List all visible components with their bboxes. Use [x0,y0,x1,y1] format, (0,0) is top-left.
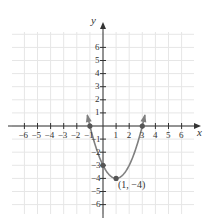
x-tick-label: −6 [18,131,28,140]
x-tick-label: 3 [140,131,145,140]
y-tick-label: 6 [95,43,100,52]
x-tick-label: 4 [153,131,158,140]
y-tick-label: −2 [91,148,101,157]
x-tick-label: 6 [179,131,184,140]
x-tick-label: −4 [45,131,55,140]
y-tick-label: 1 [95,108,100,117]
y-axis-arrow-icon [100,22,106,29]
x-tick-label: 2 [127,131,132,140]
y-tick-label: −1 [91,135,101,144]
x-tick-label: −2 [71,131,81,140]
y-tick-label: 2 [95,95,100,104]
marked-point [100,163,105,168]
x-tick-label: −3 [58,131,68,140]
y-tick-label: −6 [91,200,101,209]
parabola-graph [0,0,218,224]
x-tick-label: 5 [166,131,171,140]
marked-point [87,123,92,128]
x-axis-label: x [197,126,202,138]
y-tick-label: −3 [91,161,101,170]
marked-point [140,123,145,128]
y-tick-label: −4 [91,174,101,183]
y-tick-label: 4 [95,69,100,78]
x-tick-label: −5 [32,131,42,140]
y-axis-label: y [91,14,96,26]
x-tick-label: 1 [114,131,119,140]
y-tick-label: 5 [95,56,100,65]
y-tick-label: 3 [95,82,100,91]
y-tick-label: −5 [91,187,101,196]
vertex-label: (1, −4) [118,179,145,190]
